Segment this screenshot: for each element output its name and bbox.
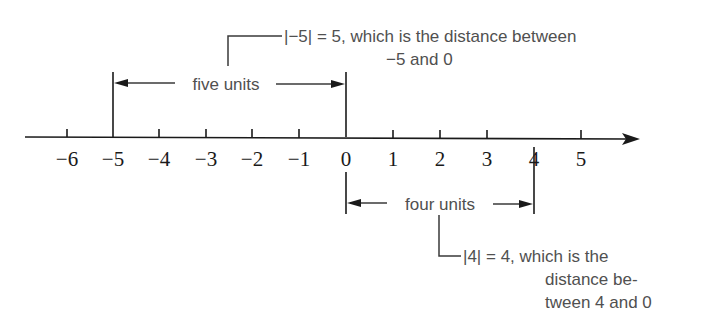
arrow-right-icon [331, 80, 345, 88]
pos4-callout-line3: tween 4 and 0 [545, 293, 652, 312]
number-line-diagram: −6 −5 −4 −3 −2 −1 0 1 2 3 4 5 five units… [0, 0, 709, 328]
tick-label: 1 [388, 147, 399, 171]
tick-label: −2 [241, 147, 263, 171]
five-units-bracket: five units [113, 72, 346, 137]
tick-label: 2 [435, 147, 446, 171]
pos4-callout-line2: distance be- [545, 270, 638, 289]
five-units-label: five units [192, 75, 259, 94]
arrow-right-icon [519, 200, 533, 208]
tick-label: −6 [56, 147, 78, 171]
neg5-callout-line2: −5 and 0 [386, 50, 453, 69]
four-units-label: four units [405, 195, 475, 214]
neg5-callout: |−5| = 5, which is the distance between … [228, 27, 576, 69]
tick-label: −1 [288, 147, 310, 171]
arrow-left-icon [347, 199, 361, 207]
tick-labels: −6 −5 −4 −3 −2 −1 0 1 2 3 4 5 [56, 147, 586, 171]
pos4-callout-line1: |4| = 4, which is the [463, 247, 608, 266]
neg5-callout-line1: |−5| = 5, which is the distance between [284, 27, 576, 46]
tick-label: −5 [102, 147, 124, 171]
pos4-callout: |4| = 4, which is the distance be- tween… [439, 215, 652, 312]
tick-label: 0 [341, 147, 352, 171]
arrow-left-icon [114, 79, 128, 87]
number-line-axis [25, 137, 628, 139]
tick-label: −3 [195, 147, 217, 171]
tick-label: 3 [482, 147, 493, 171]
tick-label: 5 [576, 147, 587, 171]
tick-label: −4 [148, 147, 171, 171]
